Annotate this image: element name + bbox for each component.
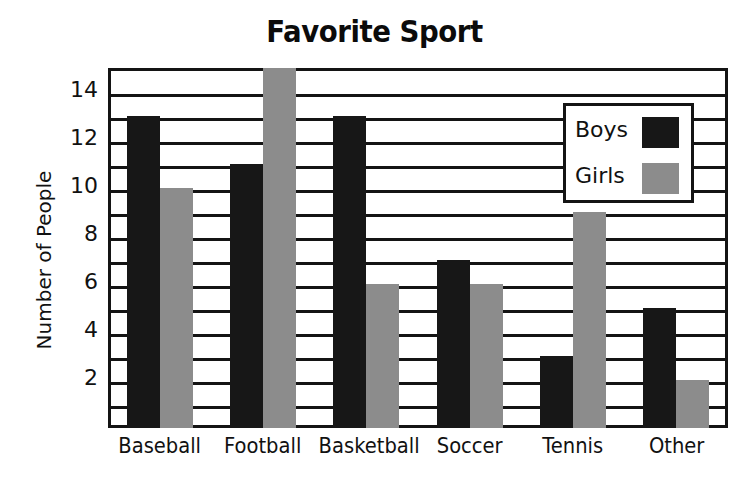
legend-label-girls: Girls [575, 163, 625, 189]
legend: Boys Girls [563, 103, 694, 203]
gridline [111, 262, 725, 265]
y-tick-label: 14 [0, 79, 98, 101]
gridline [111, 382, 725, 385]
y-tick-label: 10 [0, 175, 98, 197]
gridline [111, 358, 725, 361]
legend-label-boys: Boys [575, 117, 628, 143]
x-tick-label: Baseball [112, 434, 208, 458]
gridline [111, 286, 725, 289]
x-tick-label: Tennis [525, 434, 621, 458]
gridline [111, 94, 725, 97]
x-axis-tick-labels: BaseballFootballBasketballSoccerTennisOt… [108, 434, 728, 474]
y-tick-label: 2 [0, 367, 98, 389]
gridline [111, 406, 725, 409]
legend-item-girls: Girls [566, 156, 691, 200]
legend-swatch-girls [642, 163, 679, 194]
y-axis-tick-labels: 2468101214 [0, 0, 100, 497]
gridline [111, 334, 725, 337]
x-tick-label: Soccer [422, 434, 518, 458]
legend-swatch-boys [642, 117, 679, 148]
gridline [111, 214, 725, 217]
y-tick-label: 4 [0, 319, 98, 341]
y-tick-label: 8 [0, 223, 98, 245]
chart-title: Favorite Sport [30, 14, 719, 49]
y-tick-label: 6 [0, 271, 98, 293]
legend-item-boys: Boys [566, 110, 691, 154]
y-tick-label: 12 [0, 127, 98, 149]
x-tick-label: Football [215, 434, 311, 458]
favorite-sport-bar-chart: Favorite Sport Number of People 24681012… [0, 0, 749, 497]
x-tick-label: Other [628, 434, 724, 458]
gridline [111, 310, 725, 313]
gridline [111, 238, 725, 241]
x-tick-label: Basketball [318, 434, 414, 458]
